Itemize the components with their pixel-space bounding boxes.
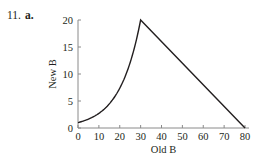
x-tick-label: 20	[115, 131, 126, 142]
x-tick-label: 10	[94, 131, 105, 142]
y-tick-label: 0	[68, 123, 73, 134]
chart: 0102030405060708005101520 Old B New B	[0, 0, 265, 157]
x-tick-label: 80	[240, 131, 251, 142]
axes: 0102030405060708005101520	[63, 15, 251, 143]
x-tick-label: 30	[135, 131, 146, 142]
x-tick-label: 50	[177, 131, 188, 142]
y-tick-label: 10	[63, 69, 74, 80]
x-tick-label: 40	[156, 131, 167, 142]
y-tick-label: 15	[63, 42, 74, 53]
data-line	[78, 20, 245, 128]
x-tick-label: 60	[198, 131, 209, 142]
x-tick-label: 0	[75, 131, 80, 142]
x-tick-label: 70	[219, 131, 230, 142]
y-tick-label: 20	[63, 15, 74, 26]
y-tick-label: 5	[68, 96, 73, 107]
x-axis-label: Old B	[151, 144, 176, 155]
y-axis-label: New B	[47, 59, 58, 88]
